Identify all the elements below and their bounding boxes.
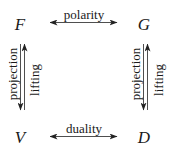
- left-projection-label: projection: [6, 48, 19, 101]
- polarity-label: polarity: [64, 8, 104, 21]
- commutative-diagram: F G V D polarity duality projection lift…: [0, 0, 172, 150]
- node-f: F: [10, 16, 30, 33]
- node-d: D: [134, 129, 154, 146]
- right-lifting-label: lifting: [152, 64, 165, 96]
- node-g: G: [134, 16, 154, 33]
- right-projection-label: projection: [129, 48, 142, 101]
- node-v: V: [10, 129, 30, 146]
- duality-label: duality: [66, 122, 102, 135]
- left-lifting-label: lifting: [28, 64, 41, 96]
